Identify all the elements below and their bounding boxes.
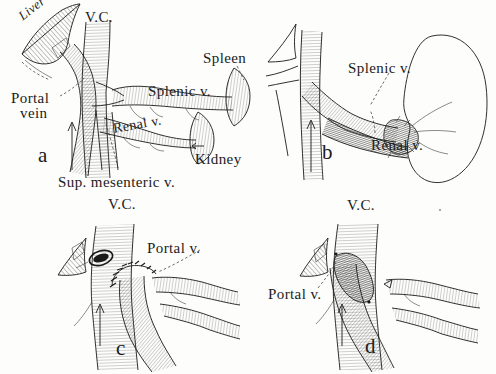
label-a-portal-vein: Portal [11,91,49,106]
label-a-spleen: Spleen [203,51,246,66]
label-a-kidney: Kidney [195,152,242,167]
panel-letter-a: a [38,145,47,166]
anatomical-figure: aLiverV.C.SpleenSplenic v.PortalveinRena… [0,0,496,374]
liver-edge-c [58,238,86,275]
label-c-vena-cava: V.C. [108,197,136,212]
kidney-shape-b [404,35,487,183]
label-c-portal-vein: Portal v. [147,241,200,256]
page-speck [439,209,441,211]
label-a-splenic-vein: Splenic v. [148,84,211,99]
liver-edge-d [300,238,328,276]
panel-letter-c: c [116,338,125,359]
label-d-portal-vein: Portal v. [268,287,321,302]
panel-b-drawing [266,24,487,183]
label-a-portal-vein-line2: vein [20,106,47,121]
spleen-shape [226,68,250,126]
left-branch-b [266,66,299,156]
label-b-splenic-vein: Splenic v. [348,61,411,76]
label-b-renal-vein: Renal v. [371,138,423,153]
mesenteric-branches-c [152,277,240,339]
label-a-vena-cava: V.C. [85,10,113,25]
label-d-vena-cava: V.C. [347,198,375,213]
label-a-sup-mesenteric-vein: Sup. mesenteric v. [58,175,175,190]
leader-splenic-b [370,73,389,106]
panel-letter-b: b [322,142,333,163]
leader-liver [22,62,50,80]
mesenteric-branches-d [384,279,480,343]
panel-letter-d: d [365,336,376,357]
panel-d-drawing [300,209,480,372]
liver-edge-b [268,24,296,62]
